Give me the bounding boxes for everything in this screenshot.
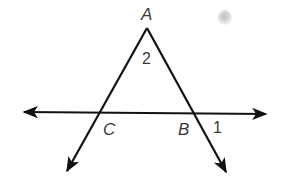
smudge-mark: [218, 10, 232, 26]
ray-ac: [67, 28, 147, 171]
angle-label-1: 1: [213, 120, 222, 136]
point-label-a: A: [141, 6, 152, 23]
angle-label-2: 2: [142, 51, 151, 67]
geometry-diagram: [0, 0, 283, 187]
point-label-b: B: [178, 121, 189, 138]
line-cb: [24, 112, 266, 114]
ray-ab: [147, 28, 226, 172]
point-label-c: C: [103, 121, 115, 138]
